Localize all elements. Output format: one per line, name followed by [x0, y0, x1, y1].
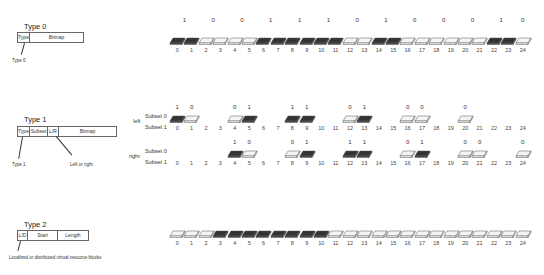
block-index-label: 3: [213, 240, 227, 246]
resource-block-free: [429, 36, 443, 44]
resource-block-allocated: [242, 114, 256, 122]
block-index-label: 3: [213, 160, 227, 166]
resource-block-free: [242, 149, 256, 157]
resource-block-free: [228, 36, 242, 44]
resource-block-allocated: [271, 229, 285, 237]
block-index-label: 20: [458, 125, 472, 131]
resource-block-allocated: [271, 36, 285, 44]
type1-left-subset0-label: Subset 0: [145, 113, 167, 119]
type2-block-row: 0123456789101112131415161718192021222324: [170, 229, 532, 237]
resource-block-free: [415, 229, 429, 237]
type1-type-pointer-line: [18, 137, 23, 159]
resource-block-free: [516, 229, 530, 237]
resource-block-free: [472, 149, 486, 157]
resource-block-allocated: [357, 149, 371, 157]
block-index-label: 13: [357, 240, 371, 246]
type1-right-label: right: [129, 153, 140, 159]
block-index-label: 7: [271, 160, 285, 166]
block-index-label: 10: [314, 47, 328, 53]
block-index-label: 24: [516, 160, 530, 166]
resource-block-free: [458, 114, 472, 122]
field-bitmap: Bitmap: [30, 33, 83, 42]
bitmap-bit-label: 1: [300, 104, 314, 110]
block-index-label: 17: [415, 125, 429, 131]
bitmap-bit-label: 0: [400, 104, 414, 110]
resource-block-allocated: [300, 229, 314, 237]
block-index-label: 18: [429, 47, 443, 53]
field-bitmap: Bitmap: [59, 127, 116, 136]
resource-block-allocated: [285, 36, 299, 44]
block-index-label: 1: [184, 160, 198, 166]
block-index-label: 20: [458, 160, 472, 166]
block-index-label: 19: [444, 47, 458, 53]
block-index-label: 17: [415, 160, 429, 166]
block-index-label: 24: [516, 47, 530, 53]
resource-block-free: [372, 229, 386, 237]
block-index-label: 19: [444, 125, 458, 131]
type1-title: Type 1: [24, 115, 47, 124]
block-index-label: 10: [314, 240, 328, 246]
type2-title: Type 2: [24, 220, 47, 229]
bitmap-bit-label: 0: [465, 17, 479, 23]
resource-block-free: [472, 36, 486, 44]
block-index-label: 8: [285, 160, 299, 166]
resource-block-free: [400, 114, 414, 122]
bitmap-bit-label: 0: [436, 17, 450, 23]
block-index-label: 20: [458, 240, 472, 246]
field-type: Type: [18, 127, 30, 136]
block-index-label: 21: [472, 240, 486, 246]
type1-right-subset0-label: Subset 0: [145, 148, 167, 154]
block-index-label: 24: [516, 125, 530, 131]
bitmap-bit-label: 1: [170, 104, 184, 110]
type1-left-subset1-label: Subset 1: [145, 124, 167, 130]
block-index-label: 0: [170, 240, 184, 246]
bitmap-bit-label: 1: [321, 17, 335, 23]
bitmap-bit-label: 1: [300, 139, 314, 145]
block-index-label: 6: [256, 47, 270, 53]
field-l-r: L/R: [48, 127, 59, 136]
block-index-label: 16: [400, 240, 414, 246]
bitmap-bit-label: 0: [235, 17, 249, 23]
block-index-label: 12: [343, 47, 357, 53]
resource-block-free: [415, 36, 429, 44]
resource-block-free: [516, 149, 530, 157]
resource-block-free: [242, 36, 256, 44]
block-index-label: 14: [372, 125, 386, 131]
resource-block-allocated: [415, 149, 429, 157]
bitmap-bit-label: 1: [379, 17, 393, 23]
resource-block-allocated: [314, 36, 328, 44]
resource-block-free: [285, 149, 299, 157]
resource-block-free: [386, 229, 400, 237]
resource-block-allocated: [256, 36, 270, 44]
resource-block-free: [170, 229, 184, 237]
block-index-label: 9: [300, 160, 314, 166]
block-index-label: 8: [285, 240, 299, 246]
resource-block-free: [501, 229, 515, 237]
resource-block-free: [213, 36, 227, 44]
block-index-label: 4: [228, 240, 242, 246]
block-index-label: 7: [271, 125, 285, 131]
block-index-label: 22: [487, 240, 501, 246]
bitmap-bit-label: 0: [343, 104, 357, 110]
bitmap-bit-label: 0: [184, 104, 198, 110]
bitmap-bit-label: 1: [343, 139, 357, 145]
block-index-label: 2: [199, 47, 213, 53]
block-index-label: 2: [199, 125, 213, 131]
resource-block-allocated: [285, 229, 299, 237]
resource-block-free: [328, 229, 342, 237]
type1-left-label: left: [133, 118, 140, 124]
block-index-label: 6: [256, 240, 270, 246]
block-index-label: 15: [386, 47, 400, 53]
resource-block-free: [516, 36, 530, 44]
bitmap-bit-label: 0: [472, 139, 486, 145]
resource-block-allocated: [300, 36, 314, 44]
block-index-label: 23: [501, 160, 515, 166]
block-index-label: 14: [372, 160, 386, 166]
block-index-label: 20: [458, 47, 472, 53]
resource-block-free: [343, 36, 357, 44]
block-index-label: 19: [444, 160, 458, 166]
type1-lr-pointer-line: [56, 136, 72, 155]
block-index-label: 17: [415, 240, 429, 246]
resource-block-free: [472, 229, 486, 237]
block-index-label: 10: [314, 125, 328, 131]
